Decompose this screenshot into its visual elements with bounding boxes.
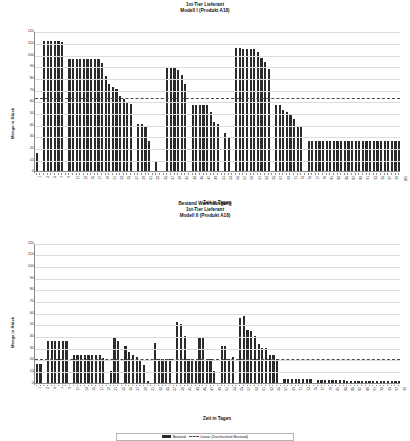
x-tick-mark <box>54 385 55 386</box>
x-tick-mark <box>77 385 78 386</box>
gridline <box>35 337 400 338</box>
x-tick-mark <box>398 173 399 174</box>
x-tick-mark <box>110 385 111 386</box>
x-tick-label: 91 <box>367 176 370 180</box>
bar <box>361 381 363 382</box>
x-tick-label: 67 <box>285 387 288 391</box>
bar <box>47 41 49 172</box>
bar-swatch-icon <box>162 435 171 438</box>
chart-panel-modell-1: 1st-Tier Lieferant Modell I (Produkt A18… <box>0 0 410 196</box>
bar <box>291 379 293 383</box>
bar <box>124 346 126 382</box>
x-tick-mark <box>206 173 207 174</box>
chart-1-title-line-1: 1st-Tier Lieferant <box>0 0 410 8</box>
x-tick-mark <box>166 173 167 174</box>
x-tick-label: 25 <box>130 387 133 391</box>
x-tick-mark <box>165 385 166 386</box>
x-tick-mark <box>39 173 40 174</box>
bar <box>380 141 382 171</box>
x-tick-mark <box>163 173 164 174</box>
x-tick-label: 13 <box>84 176 87 180</box>
bar <box>368 381 370 382</box>
y-tick-mark <box>34 244 35 245</box>
bar <box>333 141 335 171</box>
x-tick-label: 11 <box>78 387 81 390</box>
x-tick-mark <box>87 173 88 174</box>
x-tick-mark <box>62 385 63 386</box>
bar <box>128 352 130 382</box>
x-tick-label: 101 <box>405 176 408 181</box>
x-tick-mark <box>192 173 193 174</box>
bar <box>239 48 241 172</box>
x-tick-mark <box>137 173 138 174</box>
x-tick-label: 81 <box>331 176 334 180</box>
x-tick-mark <box>279 173 280 174</box>
x-tick-mark <box>268 173 269 174</box>
x-tick-label: 15 <box>92 176 95 180</box>
x-tick-mark <box>94 173 95 174</box>
bar <box>246 330 248 383</box>
chart-panel-modell-2: Bestand Warenausgang 1st-Tier Lieferant … <box>0 197 410 438</box>
x-tick-mark <box>383 385 384 386</box>
x-tick-mark <box>105 173 106 174</box>
bar <box>369 141 371 171</box>
gridline <box>35 244 400 245</box>
x-tick-label: 83 <box>344 387 347 391</box>
x-tick-mark <box>372 385 373 386</box>
x-tick-mark <box>139 385 140 386</box>
gridline <box>35 290 400 291</box>
x-tick-mark <box>99 385 100 386</box>
chart-1-plot-area: 0102030405060708090100110120 <box>34 32 400 172</box>
gridline <box>35 314 400 315</box>
x-tick-mark <box>199 173 200 174</box>
gridline <box>35 114 400 115</box>
bar <box>68 59 70 171</box>
x-tick-mark <box>373 173 374 174</box>
y-tick-mark <box>34 67 35 68</box>
gridline <box>35 325 400 326</box>
x-tick-mark <box>213 173 214 174</box>
x-tick-mark <box>180 385 181 386</box>
x-tick-label: 11 <box>77 176 80 179</box>
bar <box>324 380 326 382</box>
x-tick-label: 1 <box>39 176 42 178</box>
x-tick-mark <box>119 173 120 174</box>
bar <box>86 59 88 171</box>
chart-2-y-axis-label: Menge in Stück <box>10 316 15 347</box>
x-tick-mark <box>154 385 155 386</box>
x-tick-label: 29 <box>142 176 145 180</box>
x-tick-mark <box>169 385 170 386</box>
x-tick-mark <box>106 385 107 386</box>
x-tick-mark <box>317 385 318 386</box>
x-tick-mark <box>361 385 362 386</box>
x-tick-mark <box>199 385 200 386</box>
bar <box>311 141 313 171</box>
gridline <box>35 161 400 162</box>
x-tick-label: 23 <box>122 387 125 391</box>
x-tick-mark <box>269 385 270 386</box>
x-tick-mark <box>369 173 370 174</box>
bar <box>372 381 374 382</box>
x-tick-mark <box>311 173 312 174</box>
chart-1-trendline <box>35 98 400 99</box>
x-tick-mark <box>228 385 229 386</box>
bar <box>302 379 304 383</box>
x-tick-label: 81 <box>337 387 340 391</box>
y-tick-mark <box>34 290 35 291</box>
x-tick-label: 41 <box>186 176 189 180</box>
bar <box>355 141 357 171</box>
chart-1-title-line-2: Modell I (Produkt A18) <box>0 8 410 14</box>
x-tick-label: 99 <box>396 176 399 180</box>
x-tick-label: 19 <box>107 387 110 391</box>
y-tick-mark <box>34 32 35 33</box>
x-tick-mark <box>398 385 399 386</box>
x-tick-label: 33 <box>157 176 160 180</box>
x-tick-label: 3 <box>47 387 50 389</box>
x-tick-mark <box>276 385 277 386</box>
bar <box>62 341 64 383</box>
bar <box>210 112 212 172</box>
x-tick-mark <box>91 385 92 386</box>
x-tick-mark <box>191 385 192 386</box>
x-tick-mark <box>304 173 305 174</box>
x-tick-mark <box>232 385 233 386</box>
